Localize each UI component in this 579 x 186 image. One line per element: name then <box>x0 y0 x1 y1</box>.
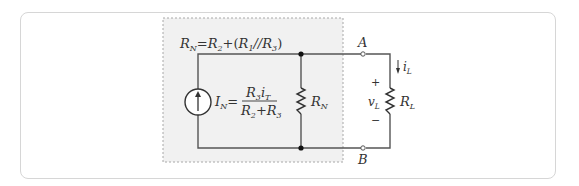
vl-label: vL <box>368 95 380 111</box>
terminal-b-icon <box>361 146 365 150</box>
junction-dot-top <box>298 51 303 56</box>
rl-label: RL <box>399 94 415 111</box>
minus-sign: − <box>371 114 380 127</box>
circuit-diagram: RN=R2+(R1//R3) IN= R3iT R2+R3 RN A B iL … <box>0 0 579 186</box>
terminal-a-label: A <box>357 35 367 50</box>
resistor-rl-icon <box>386 88 394 114</box>
plus-sign: + <box>371 76 380 89</box>
in-formula-denominator: R2+R3 <box>240 103 282 120</box>
current-arrow-icon <box>396 60 400 74</box>
terminal-a-icon <box>361 52 365 56</box>
current-source-icon <box>185 89 211 115</box>
junction-dot-bottom <box>298 145 303 150</box>
terminal-b-label: B <box>357 152 368 167</box>
il-label: iL <box>403 60 412 76</box>
